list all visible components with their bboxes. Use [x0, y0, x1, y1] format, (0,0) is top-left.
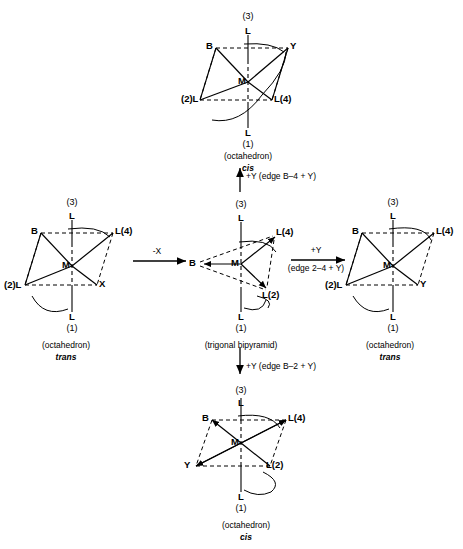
left-octahedron-axial-bottom-L: L	[69, 312, 75, 322]
left-octahedron-vertex-L4: L(4)	[115, 226, 132, 236]
right-octahedron-axial-top-number: (3)	[388, 198, 399, 207]
tbp-caption-geometry: (trigonal bipyramid)	[205, 341, 278, 350]
tbp-vertex-L2: L(2)	[262, 290, 279, 300]
arrow-down-b2-label: +Y (edge B–2 + Y)	[246, 362, 316, 371]
left-octahedron-axial-bottom-number: (1)	[67, 324, 78, 333]
bottom-octahedron-center-metal: M	[231, 437, 239, 447]
right-octahedron-caption-isomer: trans	[380, 353, 401, 362]
tbp-center-metal: M	[231, 258, 239, 268]
tbp-vertex-L4: L(4)	[276, 227, 293, 237]
top-octahedron-axial-bottom-L: L	[245, 128, 251, 138]
tbp-axial-bottom-L: L	[238, 312, 244, 322]
top-octahedron-vertex-B: B	[206, 41, 213, 51]
right-octahedron-axial-bottom-L: L	[390, 312, 396, 322]
bottom-octahedron-vertex-B: B	[202, 413, 209, 423]
arrow-plus-y-right-label-top: +Y	[311, 246, 322, 255]
tbp-axial-bottom-number: (1)	[236, 324, 247, 333]
left-octahedron-axial-top-L: L	[69, 211, 75, 221]
bottom-octahedron-vertex-L2: L(2)	[266, 460, 283, 470]
bottom-octahedron-vertex-L4: L(4)	[288, 413, 305, 423]
bottom-octahedron-caption-isomer: cis	[240, 533, 252, 542]
left-octahedron-center-metal: M	[62, 260, 70, 270]
left-octahedron-vertex-B: B	[31, 226, 38, 236]
diagram-canvas: (3) L B Y (2)L L(4) M L (1) (octahedron)…	[0, 0, 463, 549]
left-octahedron-vertex-X: X	[99, 279, 105, 289]
right-octahedron-axial-bottom-number: (1)	[388, 324, 399, 333]
top-octahedron-vertex-L2: (2)L	[181, 94, 198, 104]
arrow-plus-y-right-label-bottom: (edge 2–4 + Y)	[288, 264, 344, 273]
bottom-octahedron-axial-top-number: (3)	[236, 386, 247, 395]
right-octahedron-axial-top-L: L	[390, 211, 396, 221]
top-octahedron-center-metal: M	[238, 76, 246, 86]
bottom-octahedron-vertex-Y: Y	[184, 460, 190, 470]
bottom-octahedron-axial-bottom-L: L	[238, 492, 244, 502]
top-octahedron-axial-bottom-number: (1)	[243, 140, 254, 149]
top-octahedron-vertex-Y: Y	[290, 41, 296, 51]
bottom-octahedron-axial-bottom-number: (1)	[236, 504, 247, 513]
tbp-axial-top-L: L	[238, 213, 244, 223]
bottom-octahedron-graphic	[196, 398, 286, 495]
bottom-octahedron-caption-geometry: (octahedron)	[222, 521, 270, 530]
tbp-vertex-B: B	[189, 258, 196, 268]
left-octahedron-vertex-L2: (2)L	[4, 280, 21, 290]
top-octahedron-axial-top-number: (3)	[243, 12, 254, 21]
left-octahedron-caption-isomer: trans	[56, 353, 77, 362]
left-octahedron-caption-geometry: (octahedron)	[42, 341, 90, 350]
tbp-axial-top-number: (3)	[236, 200, 247, 209]
arrow-up-b4-label: +Y (edge B–4 + Y)	[246, 172, 316, 181]
right-octahedron-vertex-L2: (2)L	[325, 280, 342, 290]
diagram-svg	[0, 0, 463, 549]
left-octahedron-axial-top-number: (3)	[67, 198, 78, 207]
top-octahedron-caption-geometry: (octahedron)	[224, 152, 272, 161]
right-octahedron-vertex-Y: Y	[420, 279, 426, 289]
top-octahedron-vertex-L4: L(4)	[274, 94, 291, 104]
right-octahedron-caption-geometry: (octahedron)	[366, 341, 414, 350]
right-octahedron-vertex-B: B	[352, 226, 359, 236]
top-octahedron-axial-top-L: L	[245, 26, 251, 36]
right-octahedron-vertex-L4: L(4)	[436, 226, 453, 236]
arrow-minus-x-label: -X	[153, 247, 162, 256]
right-octahedron-center-metal: M	[383, 260, 391, 270]
bottom-octahedron-axial-top-L: L	[238, 398, 244, 408]
